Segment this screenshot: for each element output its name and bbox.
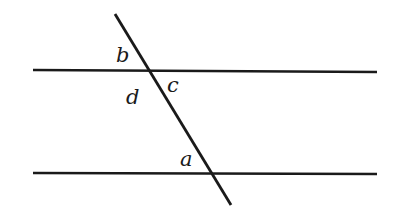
angle-label-d: d — [126, 85, 139, 109]
angle-label-b: b — [116, 43, 129, 67]
parallel-lines-diagram: b c d a — [0, 0, 412, 224]
transversal-line — [115, 14, 231, 205]
angle-label-a: a — [180, 147, 193, 171]
top-parallel-line — [33, 70, 377, 72]
bottom-parallel-line — [33, 173, 377, 174]
angle-label-c: c — [167, 73, 179, 97]
